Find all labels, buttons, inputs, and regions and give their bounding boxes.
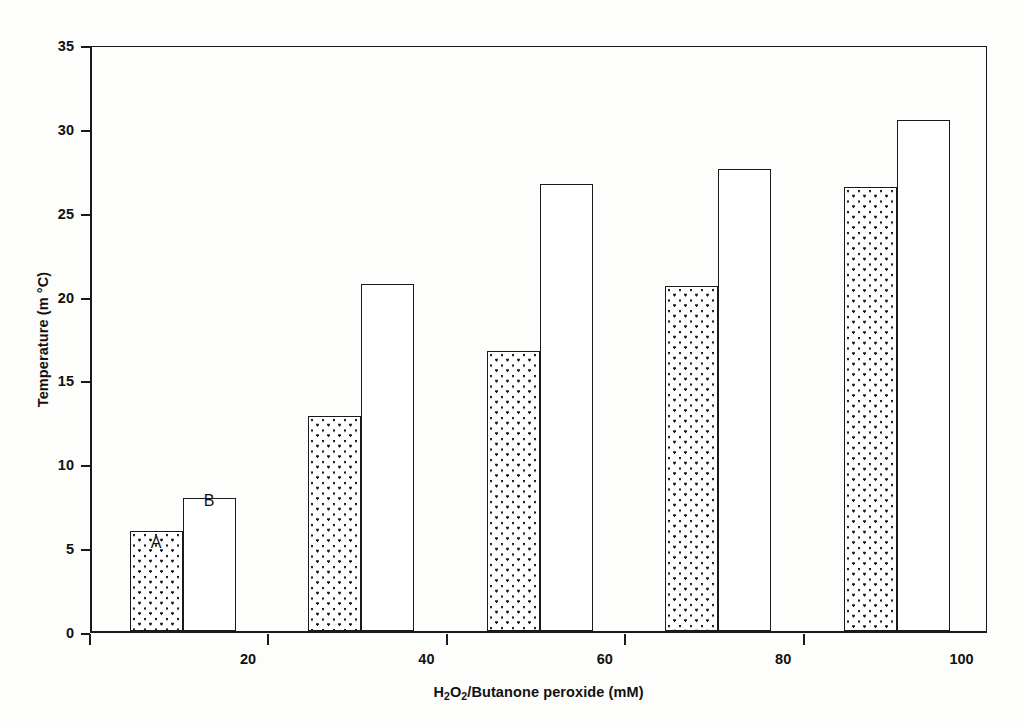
bar-series-b-100 (897, 120, 950, 631)
y-axis-tick-label: 5 (66, 539, 74, 559)
y-axis-tick-30: 30 (0, 130, 90, 131)
y-axis-tick-10: 10 (0, 465, 90, 466)
x-axis-tick-mark (267, 634, 269, 645)
y-axis-tick-mark (81, 549, 90, 551)
bar-series-b-20 (183, 498, 236, 632)
y-axis-tick-25: 25 (0, 214, 90, 215)
y-axis-tick-mark (81, 214, 90, 216)
y-axis-tick-label: 10 (58, 455, 74, 475)
y-axis-tick-mark (81, 465, 90, 467)
y-axis-tick-label: 35 (58, 36, 74, 56)
y-axis-tick-label: 0 (66, 623, 74, 643)
plot-area: A B (90, 46, 987, 633)
x-axis-tick-mark (89, 634, 91, 645)
x-axis-tick-label: 20 (208, 651, 288, 667)
x-axis-tick-mark (446, 634, 448, 645)
x-axis-tick-mark (624, 634, 626, 645)
y-axis-tick-20: 20 (0, 298, 90, 299)
y-axis-tick-label: 20 (58, 288, 74, 308)
y-axis-tick-mark (81, 298, 90, 300)
y-axis-tick-mark (81, 130, 90, 132)
y-axis-tick-35: 35 (0, 46, 90, 47)
bar-series-b-60 (540, 184, 593, 631)
x-axis-tick-label: 80 (743, 651, 823, 667)
x-axis-title: H2O2/Butanone peroxide (mM) (90, 684, 987, 700)
bar-series-a-40 (308, 416, 361, 631)
annotation-label-a: A (141, 534, 171, 552)
y-axis-tick-5: 5 (0, 549, 90, 550)
y-axis-tick-15: 15 (0, 381, 90, 382)
y-axis-tick-label: 30 (58, 120, 74, 140)
y-axis-tick-label: 25 (58, 204, 74, 224)
bar-series-a-60 (487, 351, 540, 631)
y-axis-tick-mark (81, 381, 90, 383)
y-axis-title: Temperature (m °C) (30, 46, 56, 633)
chart-figure: Temperature (m °C) 0 5 10 15 20 25 30 35… (0, 0, 1025, 727)
y-axis-tick-label: 15 (58, 371, 74, 391)
x-axis-tick-label: 100 (922, 651, 1002, 667)
y-axis-tick-0: 0 (0, 633, 90, 634)
y-axis-tick-mark (81, 46, 90, 48)
x-axis-tick-mark (803, 634, 805, 645)
x-axis-tick-label: 40 (386, 651, 466, 667)
bar-series-a-80 (665, 286, 718, 631)
x-axis-title-text: H2O2/Butanone peroxide (mM) (433, 684, 643, 700)
bar-series-b-40 (361, 284, 414, 631)
annotation-label-b: B (194, 492, 224, 510)
x-axis-tick-label: 60 (565, 651, 645, 667)
bar-series-b-80 (718, 169, 771, 631)
bar-series-a-100 (844, 187, 897, 631)
